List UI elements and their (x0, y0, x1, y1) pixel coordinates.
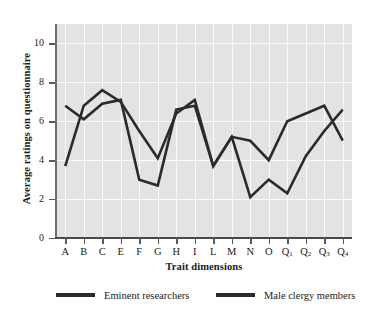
legend-swatch-icon (216, 293, 255, 298)
legend-label: Eminent researchers (104, 290, 189, 301)
legend-swatch-icon (56, 293, 95, 298)
legend-entry-male-clergy-members: Male clergy members (216, 286, 355, 304)
x-axis-title: Trait dimensions (56, 261, 352, 272)
chart-legend: Eminent researchers Male clergy members (40, 286, 340, 308)
legend-entry-eminent-researchers: Eminent researchers (56, 286, 189, 304)
legend-label: Male clergy members (264, 290, 355, 301)
line-chart: Average ratings on questionnaire 0246810… (0, 0, 370, 316)
